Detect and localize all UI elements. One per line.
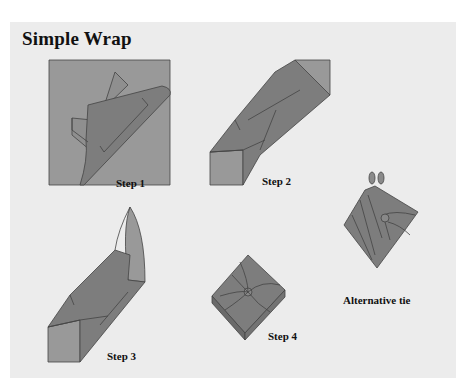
step-2-figure (210, 60, 330, 185)
step-1-label: Step 1 (116, 177, 145, 189)
step-3-label: Step 3 (107, 350, 136, 362)
alternative-tie-label: Alternative tie (343, 294, 411, 306)
step-4-label: Step 4 (268, 330, 297, 342)
wrapping-illustrations (0, 0, 470, 388)
alternative-tie-figure (344, 172, 418, 268)
step-2-label: Step 2 (262, 175, 291, 187)
step-3-figure (48, 207, 145, 362)
step-4-figure (212, 255, 285, 340)
step-1-figure (49, 60, 170, 185)
